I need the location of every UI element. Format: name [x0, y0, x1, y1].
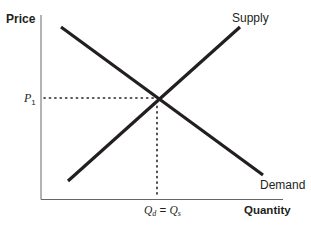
supply-label: Supply	[232, 11, 269, 25]
y-axis-label: Price	[6, 12, 36, 26]
supply-demand-diagram: Price Quantity Supply Demand P1 Qd = Qs	[0, 0, 311, 227]
equilibrium-quantity-label: Qd = Qs	[144, 204, 181, 218]
x-axis-label: Quantity	[244, 204, 291, 216]
demand-label: Demand	[260, 178, 305, 192]
price-p1-label: P1	[23, 91, 36, 107]
demand-curve	[61, 27, 263, 175]
